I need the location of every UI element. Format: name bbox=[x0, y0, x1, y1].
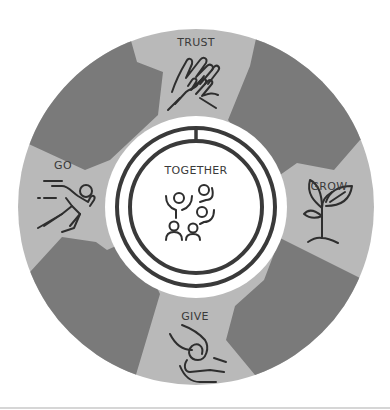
segment-label-give: GIVE bbox=[181, 310, 208, 323]
segment-label-go: GO bbox=[54, 159, 72, 172]
segment-label-trust: TRUST bbox=[177, 36, 215, 49]
values-wheel-diagram: TRUST GROW GIVE GO TOGETHER bbox=[0, 0, 390, 410]
wheel-graphic bbox=[0, 0, 390, 410]
segment-label-grow: GROW bbox=[311, 180, 348, 193]
center-label-together: TOGETHER bbox=[165, 164, 228, 177]
center-disc bbox=[105, 116, 287, 298]
bottom-divider bbox=[0, 407, 390, 409]
